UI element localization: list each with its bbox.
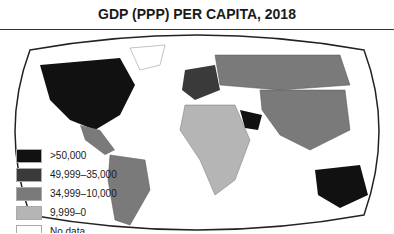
legend-label: >50,000 bbox=[50, 150, 86, 161]
legend-swatch bbox=[16, 168, 42, 182]
map-legend: >50,000 49,999–35,000 34,999–10,000 9,99… bbox=[16, 146, 117, 233]
legend-swatch bbox=[16, 149, 42, 163]
legend-item: 9,999–0 bbox=[16, 203, 117, 222]
map-title: GDP (PPP) PER CAPITA, 2018 bbox=[0, 6, 394, 22]
legend-item: No data bbox=[16, 222, 117, 233]
legend-label: No data bbox=[50, 226, 85, 233]
legend-swatch bbox=[16, 225, 42, 234]
legend-swatch bbox=[16, 187, 42, 201]
legend-item: 34,999–10,000 bbox=[16, 184, 117, 203]
legend-item: 49,999–35,000 bbox=[16, 165, 117, 184]
region-russia bbox=[215, 55, 350, 90]
legend-label: 34,999–10,000 bbox=[50, 188, 117, 199]
legend-label: 49,999–35,000 bbox=[50, 169, 117, 180]
legend-item: >50,000 bbox=[16, 146, 117, 165]
legend-swatch bbox=[16, 206, 42, 220]
legend-label: 9,999–0 bbox=[50, 207, 86, 218]
